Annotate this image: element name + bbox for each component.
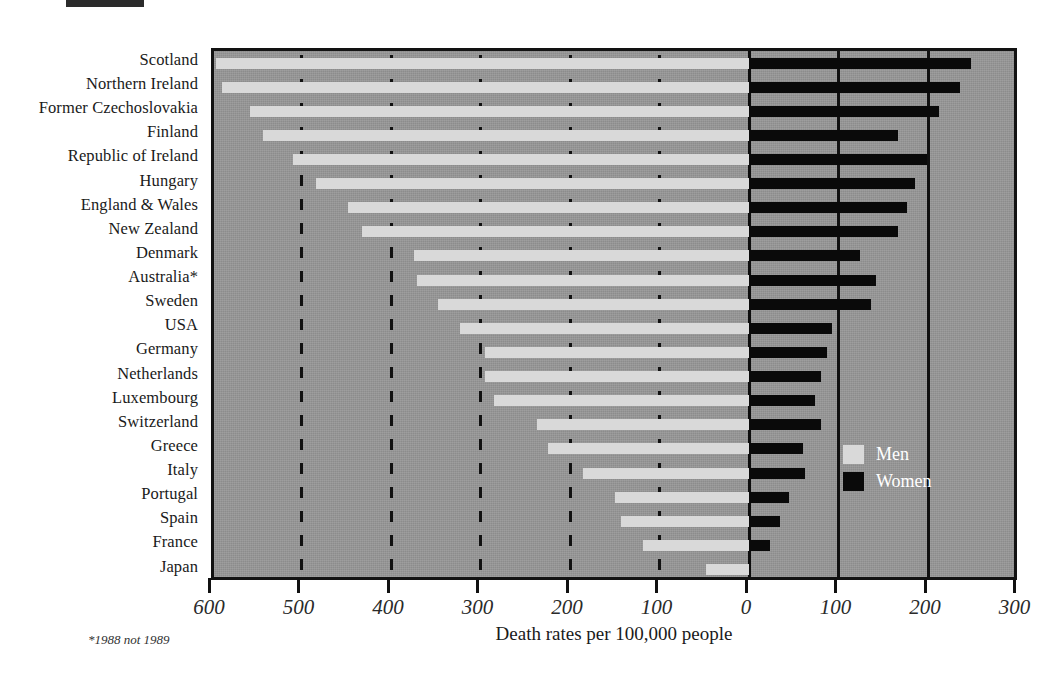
bar-men-hungary: [316, 178, 749, 189]
category-label: Scotland: [139, 51, 198, 68]
tick-label: 100: [820, 595, 852, 620]
legend-item-men: Men: [843, 441, 993, 468]
legend-swatch-men-icon: [843, 445, 864, 464]
gridline-men-600: [211, 51, 214, 577]
bar-women-greece: [749, 443, 803, 454]
bar-women-republic-of-ireland: [749, 154, 927, 165]
legend-swatch-women-icon: [843, 472, 864, 491]
tick-label: 200: [551, 595, 583, 620]
bar-women-finland: [749, 130, 898, 141]
gridline-women-200: [927, 51, 930, 577]
tick-label: 200: [909, 595, 941, 620]
legend-label-men: Men: [876, 444, 909, 465]
category-label: New Zealand: [108, 220, 198, 237]
category-label: Former Czechoslovakia: [39, 99, 198, 116]
bar-men-new-zealand: [362, 226, 749, 237]
legend-label-women: Women: [876, 471, 932, 492]
bar-women-new-zealand: [749, 226, 898, 237]
category-label: Netherlands: [117, 365, 198, 382]
category-label: Germany: [136, 340, 198, 357]
bar-men-japan: [706, 564, 749, 575]
tick-label: 0: [741, 595, 752, 620]
category-label: Japan: [160, 558, 198, 575]
bar-women-australia: [749, 275, 876, 286]
bar-women-luxembourg: [749, 395, 815, 406]
category-label: Spain: [160, 509, 198, 526]
category-label: Sweden: [145, 292, 198, 309]
tick-mark: [208, 578, 211, 593]
bar-chart: ScotlandNorthern IrelandFormer Czechoslo…: [0, 0, 1051, 683]
bar-men-greece: [548, 443, 749, 454]
bar-women-switzerland: [749, 419, 821, 430]
category-label: England & Wales: [81, 196, 198, 213]
bar-men-sweden: [438, 299, 749, 310]
category-label: Switzerland: [118, 413, 198, 430]
category-label: Republic of Ireland: [68, 147, 198, 164]
tick-label: 400: [372, 595, 404, 620]
tick-mark: [924, 578, 927, 593]
bar-women-usa: [749, 323, 832, 334]
bar-men-northern-ireland: [222, 82, 749, 93]
tick-mark: [655, 578, 658, 593]
bar-men-denmark: [414, 250, 749, 261]
category-label: Portugal: [141, 485, 198, 502]
bar-women-northern-ireland: [749, 82, 960, 93]
category-label: Italy: [167, 461, 198, 478]
category-label: Northern Ireland: [86, 75, 198, 92]
bar-men-germany: [485, 347, 749, 358]
plot-area: Men Women: [211, 48, 1017, 580]
bar-women-france: [749, 540, 770, 551]
bar-men-spain: [621, 516, 749, 527]
tick-mark: [566, 578, 569, 593]
bar-men-australia: [417, 275, 749, 286]
bar-men-portugal: [615, 492, 749, 503]
x-axis-tick-labels: 6005004003002001000100200300: [211, 595, 1017, 625]
bar-women-hungary: [749, 178, 915, 189]
bar-women-netherlands: [749, 371, 821, 382]
legend-item-women: Women: [843, 468, 993, 495]
bar-women-germany: [749, 347, 827, 358]
category-label: Finland: [147, 123, 198, 140]
tick-mark: [476, 578, 479, 593]
tick-mark: [745, 578, 748, 593]
tick-mark: [834, 578, 837, 593]
bar-women-england-wales: [749, 202, 907, 213]
bar-men-usa: [460, 323, 749, 334]
bar-men-republic-of-ireland: [293, 154, 749, 165]
bar-women-denmark: [749, 250, 860, 261]
category-label: USA: [165, 316, 198, 333]
legend: Men Women: [843, 441, 993, 495]
category-label: Luxembourg: [112, 389, 198, 406]
bar-women-portugal: [749, 492, 789, 503]
bar-men-finland: [263, 130, 749, 141]
category-axis-labels: ScotlandNorthern IrelandFormer Czechoslo…: [0, 48, 204, 580]
bar-women-italy: [749, 468, 805, 479]
bar-men-england-wales: [348, 202, 749, 213]
x-axis-title: Death rates per 100,000 people: [211, 623, 1017, 645]
bar-men-former-czechoslovakia: [250, 106, 749, 117]
bar-men-netherlands: [485, 371, 749, 382]
category-label: Denmark: [136, 244, 198, 261]
bar-women-sweden: [749, 299, 871, 310]
bar-men-luxembourg: [494, 395, 749, 406]
bar-women-spain: [749, 516, 780, 527]
bar-women-former-czechoslovakia: [749, 106, 939, 117]
bar-men-france: [643, 540, 749, 551]
category-label: France: [153, 533, 199, 550]
x-axis-tick-marks: [211, 578, 1017, 594]
tick-label: 100: [641, 595, 673, 620]
tick-mark: [1013, 578, 1016, 593]
category-label: Australia*: [128, 268, 198, 285]
tick-label: 500: [283, 595, 315, 620]
bar-men-switzerland: [537, 419, 749, 430]
tick-label: 300: [999, 595, 1031, 620]
tick-mark: [297, 578, 300, 593]
bar-men-italy: [583, 468, 749, 479]
chart-footnote: *1988 not 1989: [88, 632, 170, 648]
page-header-artifact: [66, 0, 144, 7]
tick-label: 300: [462, 595, 494, 620]
category-label: Hungary: [140, 172, 198, 189]
bar-women-scotland: [749, 58, 971, 69]
bar-men-scotland: [216, 58, 749, 69]
category-label: Greece: [151, 437, 198, 454]
